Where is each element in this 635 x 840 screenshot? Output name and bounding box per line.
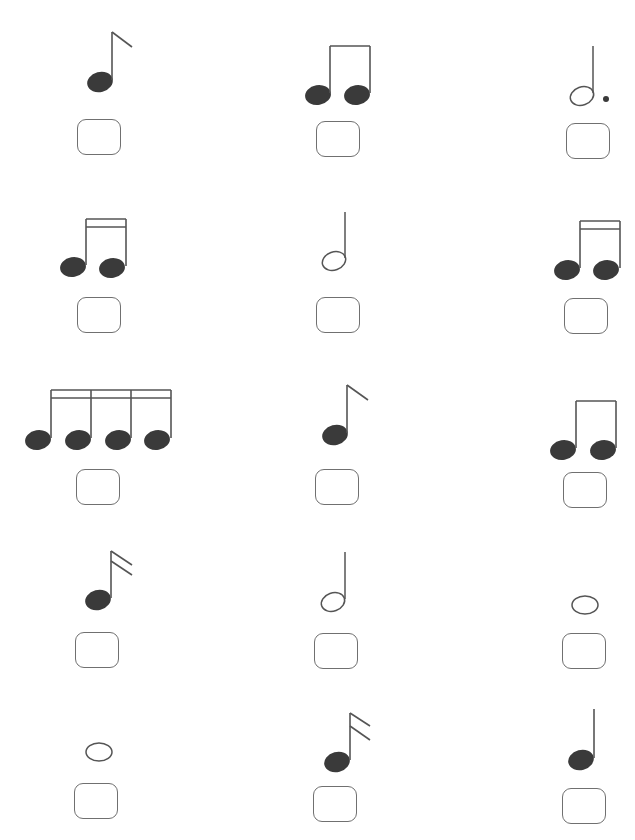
dotted-half-note-icon <box>565 40 625 110</box>
eighth-note-icon <box>318 383 378 453</box>
answer-box-4[interactable] <box>77 297 121 333</box>
answer-box-2[interactable] <box>316 121 360 157</box>
beamed-sixteenth-group-of-four-icon <box>22 385 182 455</box>
half-note-icon <box>318 550 368 620</box>
beamed-eighth-pair-icon <box>300 40 380 110</box>
answer-box-12[interactable] <box>562 633 606 669</box>
quarter-note-icon <box>565 707 615 777</box>
half-note-icon <box>318 210 368 280</box>
answer-box-13[interactable] <box>74 783 118 819</box>
answer-box-6[interactable] <box>564 298 608 334</box>
answer-box-7[interactable] <box>76 469 120 505</box>
whole-note-icon <box>85 741 125 765</box>
beamed-eighth-pair-icon <box>545 395 625 465</box>
answer-box-8[interactable] <box>315 469 359 505</box>
sixteenth-note-icon <box>320 710 380 780</box>
beamed-sixteenth-pair-icon <box>550 215 630 285</box>
answer-box-11[interactable] <box>314 633 358 669</box>
sixteenth-note-icon <box>80 548 140 618</box>
beamed-sixteenth-pair-icon <box>55 214 135 284</box>
whole-note-icon <box>570 594 610 618</box>
answer-box-3[interactable] <box>566 123 610 159</box>
eighth-note-icon <box>80 30 140 100</box>
answer-box-1[interactable] <box>77 119 121 155</box>
answer-box-9[interactable] <box>563 472 607 508</box>
answer-box-5[interactable] <box>316 297 360 333</box>
answer-box-15[interactable] <box>562 788 606 824</box>
answer-box-14[interactable] <box>313 786 357 822</box>
answer-box-10[interactable] <box>75 632 119 668</box>
